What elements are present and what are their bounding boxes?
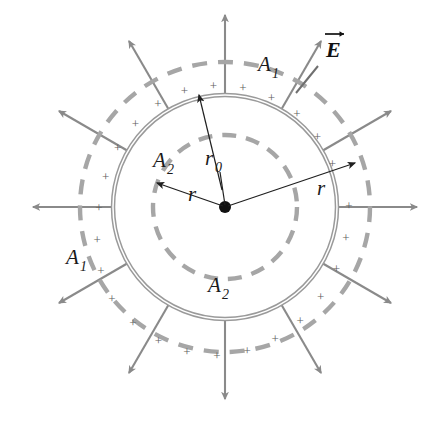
label-a2-upper-left-letter: A bbox=[151, 148, 166, 172]
plus-sign: + bbox=[317, 289, 324, 304]
label-r-outer: r bbox=[317, 176, 326, 200]
plus-sign: + bbox=[210, 78, 217, 93]
plus-sign: + bbox=[213, 348, 220, 363]
plus-sign: + bbox=[272, 331, 279, 346]
plus-sign: + bbox=[102, 169, 109, 184]
plus-sign: + bbox=[268, 90, 275, 105]
label-e-letter: E bbox=[325, 37, 341, 62]
label-r-inner: r bbox=[188, 182, 197, 206]
plus-sign: + bbox=[183, 344, 190, 359]
plus-sign: + bbox=[155, 333, 162, 348]
label-a1-top-subscript: 1 bbox=[272, 66, 279, 81]
field-line bbox=[129, 41, 169, 110]
plus-sign: + bbox=[239, 80, 246, 95]
plus-sign: + bbox=[108, 291, 115, 306]
gauss-law-spherical-shell-figure: + + + + + + + + + + + + + + + + + + + + … bbox=[0, 0, 441, 423]
label-a1-top: A 1 bbox=[256, 52, 279, 81]
plus-sign: + bbox=[314, 129, 321, 144]
label-a2-bottom-subscript: 2 bbox=[222, 287, 229, 302]
plus-sign: + bbox=[293, 106, 300, 121]
plus-sign: + bbox=[129, 315, 136, 330]
plus-sign: + bbox=[132, 116, 139, 131]
diagram-canvas: + + + + + + + + + + + + + + + + + + + + … bbox=[0, 0, 441, 423]
plus-sign: + bbox=[95, 200, 102, 215]
plus-sign: + bbox=[181, 83, 188, 98]
label-a1-left: A 1 bbox=[64, 245, 87, 274]
label-a2-bottom-letter: A bbox=[206, 273, 221, 297]
plus-sign: + bbox=[114, 140, 121, 155]
label-e-field-vector: E bbox=[325, 31, 344, 62]
label-r0-letter: r bbox=[205, 146, 214, 170]
plus-sign: + bbox=[342, 230, 349, 245]
e-vector-overbar-arrowhead bbox=[340, 31, 345, 36]
plus-sign: + bbox=[154, 96, 161, 111]
label-a1-top-letter: A bbox=[256, 52, 271, 76]
plus-sign: + bbox=[329, 156, 336, 171]
label-a1-left-letter: A bbox=[64, 245, 79, 269]
plus-sign: + bbox=[333, 261, 340, 276]
label-a2-upper-left-subscript: 2 bbox=[167, 162, 174, 177]
field-line bbox=[281, 41, 321, 110]
plus-sign: + bbox=[296, 313, 303, 328]
plus-sign: + bbox=[345, 198, 352, 213]
plus-sign: + bbox=[97, 263, 104, 278]
plus-sign: + bbox=[243, 343, 250, 358]
label-a1-left-subscript: 1 bbox=[80, 259, 87, 274]
plus-sign: + bbox=[94, 232, 101, 247]
label-r0-subscript: 0 bbox=[215, 160, 222, 175]
